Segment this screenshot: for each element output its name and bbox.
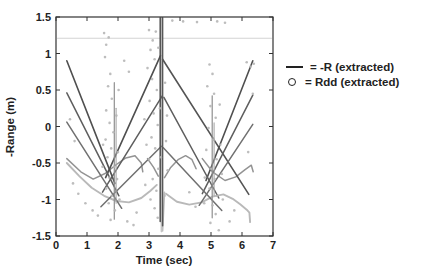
rdd-dot	[149, 198, 152, 201]
rdd-dot	[156, 124, 159, 127]
rdd-dot	[91, 209, 94, 212]
rdd-dot	[149, 49, 152, 52]
rdd-dot	[113, 165, 116, 168]
rdd-dot	[233, 209, 236, 212]
rdd-dot	[144, 184, 147, 187]
rdd-dot	[108, 176, 111, 179]
rdd-dot	[69, 118, 72, 121]
rdd-dot	[218, 103, 221, 106]
rdd-dot	[102, 144, 105, 147]
plot-line-light-u-curve-right	[166, 194, 250, 222]
circle-symbol-icon	[288, 78, 296, 86]
rdd-dot	[72, 182, 75, 185]
x-tick-label: 6	[239, 239, 245, 251]
rdd-dot	[211, 73, 214, 76]
rdd-dot	[110, 147, 113, 150]
x-tick-label: 2	[115, 239, 121, 251]
rdd-dot	[213, 92, 216, 95]
line-symbol-icon	[286, 66, 303, 68]
rdd-dot	[155, 189, 158, 192]
x-tick-label: 7	[270, 239, 276, 251]
rdd-dot	[208, 187, 211, 190]
y-tick-labels: 1.510.50-0.5-1-1.5	[32, 11, 51, 242]
rdd-dot	[101, 165, 104, 168]
rdd-dot	[209, 222, 212, 225]
rdd-dot	[163, 195, 166, 198]
rdd-dot	[106, 156, 109, 159]
rdd-dot	[126, 220, 129, 223]
rdd-dot	[143, 118, 146, 121]
rdd-dot	[153, 207, 156, 210]
rdd-dot	[117, 151, 120, 154]
rdd-dot	[157, 46, 160, 49]
y-tick-label: -1.5	[32, 230, 51, 242]
rdd-dot	[114, 209, 117, 212]
y-tick-label: -0.5	[32, 157, 51, 169]
rdd-dot	[107, 36, 110, 39]
rdd-dot	[221, 173, 224, 176]
rdd-dot	[188, 191, 191, 194]
rdd-dot	[249, 65, 252, 68]
rdd-dot	[205, 149, 208, 152]
rdd-dot	[164, 81, 167, 84]
rdd-dot	[252, 92, 255, 95]
x-tick-label: 3	[146, 239, 152, 251]
rdd-dot	[209, 105, 212, 108]
rdd-dot	[214, 116, 217, 119]
rdd-dot	[219, 144, 222, 147]
y-tick-label: -1	[41, 194, 51, 206]
rdd-dot	[165, 140, 168, 143]
rdd-dot	[204, 176, 207, 179]
rdd-dot	[153, 58, 156, 61]
rdd-dot	[148, 29, 151, 32]
rdd-dot	[109, 73, 112, 76]
legend-item-line: = -R (extracted)	[286, 61, 399, 73]
rdd-dot	[104, 56, 107, 59]
x-tick-label: 1	[84, 239, 90, 251]
rdd-dot	[253, 62, 256, 65]
rdd-dot	[111, 98, 114, 101]
rdd-dot	[73, 140, 76, 143]
range-time-chart: 01234567 1.510.50-0.5-1-1.5 Time (sec) -…	[0, 0, 425, 279]
rdd-dot	[128, 71, 131, 74]
rdd-dot	[228, 220, 231, 223]
rdd-dot	[118, 198, 121, 201]
x-tick-label: 4	[177, 239, 184, 251]
rdd-dot	[107, 202, 110, 205]
rdd-dot	[152, 112, 155, 115]
figure-range-vs-time: 01234567 1.510.50-0.5-1-1.5 Time (sec) -…	[0, 0, 425, 279]
plot-line-tent3-down-right	[163, 148, 222, 211]
rdd-dot	[160, 156, 163, 159]
rdd-dot	[159, 107, 162, 110]
rdd-dot	[222, 198, 225, 201]
rdd-dot	[207, 127, 210, 130]
y-axis-label: -Range (m)	[4, 97, 16, 157]
rdd-dot	[156, 89, 159, 92]
rdd-dot	[148, 158, 151, 161]
rdd-dot	[171, 19, 174, 22]
rdd-dot	[123, 60, 126, 63]
legend-label-line: = -R (extracted)	[310, 61, 394, 73]
rdd-dot	[216, 20, 219, 23]
x-axis-label: Time (sec)	[136, 254, 193, 266]
legend-label-circle: = Rdd (extracted)	[305, 76, 399, 88]
y-tick-label: 0	[45, 121, 51, 133]
x-tick-label: 0	[53, 239, 59, 251]
rdd-dot	[157, 168, 160, 171]
rdd-dot	[105, 187, 108, 190]
plot-line-tent2-down-left	[67, 93, 119, 196]
rdd-dot	[155, 30, 158, 33]
rdd-dot	[108, 122, 111, 125]
rdd-dot	[203, 202, 206, 205]
rdd-dot	[156, 217, 159, 220]
plot-line-cup-2-left	[148, 159, 159, 177]
plot-line-tent3-down-left	[67, 122, 122, 208]
rdd-dot	[105, 109, 108, 112]
rdd-dot	[166, 169, 169, 172]
rdd-dot	[224, 22, 227, 25]
rdd-dot	[151, 178, 154, 181]
x-tick-labels: 01234567	[53, 239, 276, 251]
rdd-dot	[84, 202, 87, 205]
rdd-dot	[97, 214, 100, 217]
plot-line-tent2-up-center	[103, 96, 163, 192]
